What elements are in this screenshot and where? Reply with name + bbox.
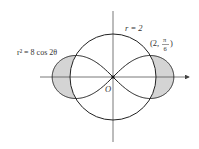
point-label-denominator: 6 xyxy=(164,45,168,52)
origin-label: O xyxy=(105,84,111,94)
point-label-numerator: π xyxy=(163,36,167,43)
lemniscate-label: r² = 8 cos 2θ xyxy=(17,48,57,57)
point-label-close: ) xyxy=(170,38,173,48)
circle-label: r = 2 xyxy=(125,23,143,33)
point-label-open: (2, xyxy=(150,38,159,48)
origin-dot xyxy=(111,75,114,78)
polar-diagram: r = 2 r² = 8 cos 2θ (2, π 6 ) O xyxy=(0,0,199,149)
